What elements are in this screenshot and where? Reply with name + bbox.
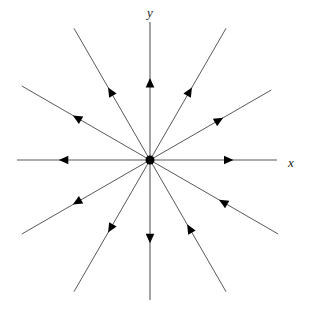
x-axis-label: x (287, 155, 294, 170)
phase-portrait-canvas: x y (0, 0, 311, 318)
phase-portrait-figure: x y (0, 0, 311, 318)
origin-point-marker (146, 156, 155, 165)
figure-background (0, 0, 311, 318)
y-axis-label: y (145, 5, 153, 20)
